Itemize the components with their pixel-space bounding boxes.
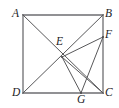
vertex-dot-E <box>61 56 63 58</box>
point-label-B: B <box>105 8 112 20</box>
vertex-dot-F <box>102 36 104 38</box>
segment-FG <box>81 37 103 93</box>
point-label-F: F <box>105 29 112 41</box>
vertex-markers <box>61 36 104 94</box>
geometry-figure: A B C D E F G <box>0 0 119 108</box>
point-label-G: G <box>77 94 85 106</box>
segment-EC <box>62 57 103 93</box>
point-label-E: E <box>56 36 63 48</box>
point-label-A: A <box>12 8 19 20</box>
inner-segments <box>23 15 103 93</box>
point-label-D: D <box>12 87 20 99</box>
point-label-C: C <box>105 87 113 99</box>
